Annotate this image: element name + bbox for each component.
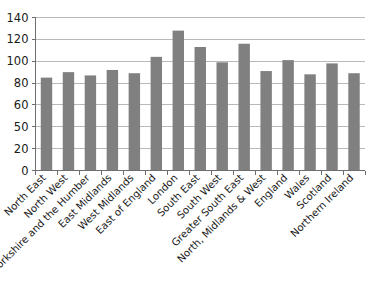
bar: [129, 73, 140, 170]
bar: [260, 71, 271, 170]
bar-chart: 140120100806050200 North EastNorth WestY…: [0, 0, 370, 306]
y-tick-label: 20: [14, 142, 29, 156]
y-tick-label: 120: [7, 32, 29, 46]
bar: [63, 72, 74, 170]
bar: [41, 78, 52, 171]
bar: [217, 62, 228, 170]
y-tick-label: 140: [7, 11, 29, 25]
bar: [85, 75, 96, 170]
bars-group: [41, 31, 360, 171]
x-axis-group: North EastNorth WestYorkshire and the Hu…: [0, 171, 365, 275]
y-tick-label: 80: [14, 76, 29, 90]
bar: [151, 57, 162, 171]
bar: [173, 31, 184, 171]
y-tick-label: 50: [14, 120, 29, 134]
bar: [304, 74, 315, 170]
bar: [326, 63, 337, 170]
bar: [107, 70, 118, 171]
bar: [238, 44, 249, 171]
y-tick-label: 0: [21, 164, 28, 178]
bar: [348, 73, 359, 170]
y-tick-label: 100: [7, 54, 29, 68]
bar: [195, 47, 206, 170]
bar: [282, 60, 293, 170]
chart-canvas: 140120100806050200 North EastNorth WestY…: [0, 0, 370, 306]
y-axis-group: 140120100806050200: [7, 11, 36, 178]
y-tick-label: 60: [14, 98, 29, 112]
